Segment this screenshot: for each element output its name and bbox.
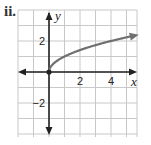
y-tick-label: −2 xyxy=(32,97,45,109)
y-tick-label: 2 xyxy=(39,35,45,47)
x-axis-label: x xyxy=(130,74,137,89)
x-axis-left-arrow-icon xyxy=(18,69,26,76)
tick-labels: 242−2xy xyxy=(32,8,137,109)
start-point-dot xyxy=(46,69,51,74)
axes xyxy=(18,12,137,135)
x-tick-label: 2 xyxy=(77,75,83,87)
graph: 242−2xy xyxy=(0,0,151,145)
x-tick-label: 4 xyxy=(108,75,114,87)
grid-lines xyxy=(18,10,137,137)
y-axis-up-arrow-icon xyxy=(46,12,53,20)
y-axis-label: y xyxy=(53,8,61,23)
